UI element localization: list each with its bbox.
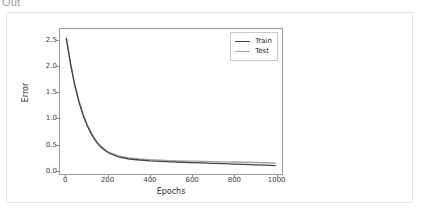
legend-item-test: Test [235,47,272,56]
x-tick-mark [150,175,151,178]
legend-label-train: Train [255,37,272,46]
x-axis-tick-marks [59,175,283,179]
legend-swatch-train [235,41,250,42]
notebook-output-card: 0.00.51.01.52.02.5 Train Test 0200400600… [6,12,413,203]
x-tick-mark [277,175,278,178]
legend-swatch-test [235,51,250,52]
x-tick-mark [192,175,193,178]
x-tick-mark [108,175,109,178]
chart-legend: Train Test [230,32,278,61]
legend-label-test: Test [255,47,269,56]
legend-item-train: Train [235,37,272,46]
y-tick-label: 0.0 [23,167,57,175]
y-tick-label: 0.5 [23,141,57,149]
x-tick-mark [234,175,235,178]
plot-area: Train Test [59,28,283,175]
matplotlib-figure: 0.00.51.01.52.02.5 Train Test 0200400600… [19,15,309,201]
y-tick-label: 2.5 [23,36,57,44]
y-axis-label: Error [21,63,30,123]
x-axis-label: Epochs [59,187,283,196]
output-cell-label: Out [2,0,20,8]
x-tick-mark [65,175,66,178]
